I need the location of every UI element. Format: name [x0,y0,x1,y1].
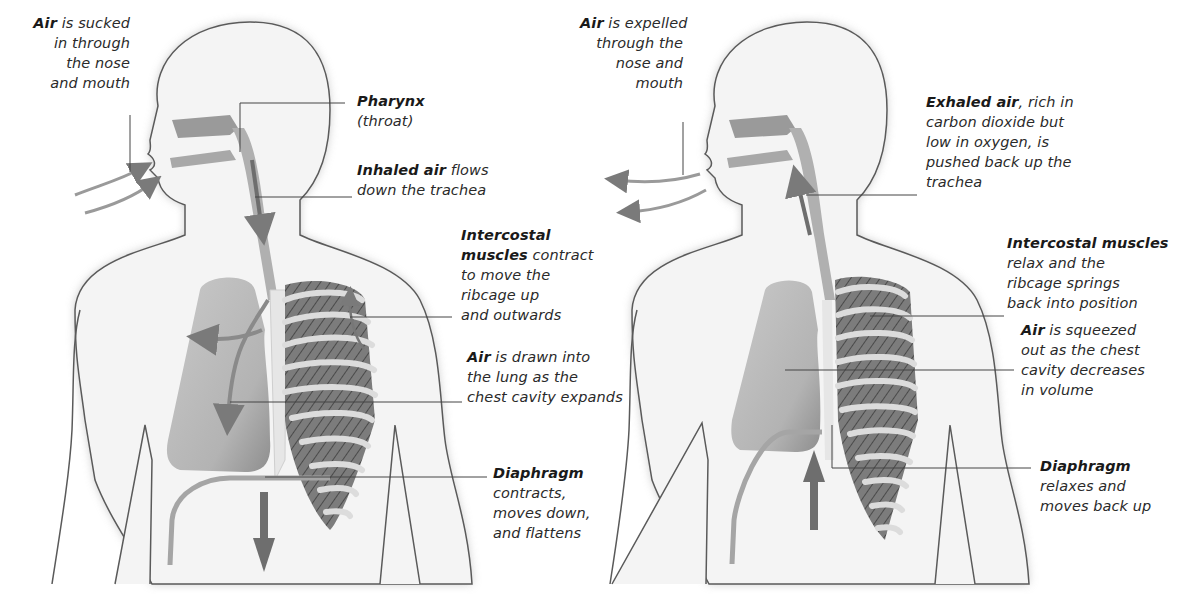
label-air-sucked-in: Air is sucked in through the nose and mo… [30,13,130,93]
air-out-arrows [616,174,706,212]
label-inhaled-air: Inhaled air flows down the trachea [357,160,489,200]
label-diaphragm-contracts: Diaphragm contracts, moves down, and fla… [493,463,591,543]
air-in-arrows [75,168,152,213]
breathing-diagram: Air is sucked in through the nose and mo… [0,0,1180,612]
label-intercostal-contract: Intercostal muscles contract to move the… [461,225,594,325]
label-diaphragm-relaxes: Diaphragm relaxes and moves back up [1040,456,1151,516]
label-intercostal-relax: Intercostal muscles relax and the ribcag… [1007,233,1169,313]
label-air-drawn-in: Air is drawn into the lung as the chest … [467,347,623,407]
label-air-expelled: Air is expelled through the nose and mou… [580,13,683,93]
label-exhaled-air: Exhaled air, rich in carbon dioxide but … [926,92,1074,192]
label-pharynx: Pharynx (throat) [357,91,425,131]
label-air-squeezed: Air is squeezed out as the chest cavity … [1021,320,1145,400]
